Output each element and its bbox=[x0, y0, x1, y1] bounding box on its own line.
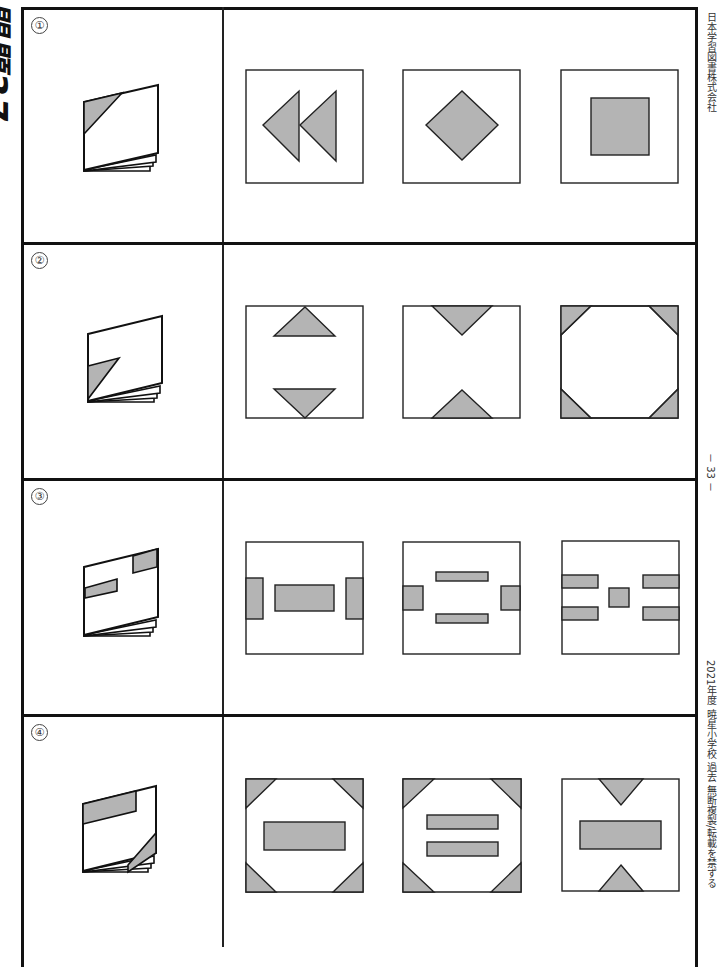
choice-4-1[interactable] bbox=[246, 779, 363, 892]
choice-1-3[interactable] bbox=[561, 70, 678, 183]
choice-2-2[interactable] bbox=[403, 306, 520, 418]
choice-3-1[interactable] bbox=[246, 542, 363, 654]
choice-2-3[interactable] bbox=[561, 306, 678, 418]
publisher-label: 日本学習図書株式会社 bbox=[704, 12, 718, 112]
choice-4-3[interactable] bbox=[562, 779, 679, 891]
choice-3-2[interactable] bbox=[403, 542, 520, 654]
choice-4-2[interactable] bbox=[403, 779, 521, 892]
choice-1-2[interactable] bbox=[403, 70, 520, 183]
page-number: － 33 － bbox=[704, 453, 718, 492]
footer-note: 2021年度 暁星小学校 過去 無断複製/転載を禁ずる bbox=[704, 660, 718, 888]
choice-2-1[interactable] bbox=[246, 306, 363, 418]
choice-3-3[interactable] bbox=[562, 541, 679, 654]
choice-1-1[interactable] bbox=[246, 70, 363, 183]
